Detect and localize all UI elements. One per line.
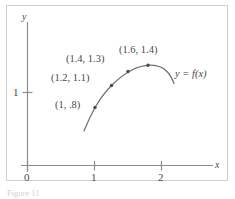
figure-caption: Figure 11	[7, 188, 127, 199]
figure-container: y x 1 0 1 2 (1, .8) (1.2, 1.1) (1.4, 1.3…	[0, 0, 235, 199]
plot-graphics	[0, 0, 235, 199]
x-tick-label-2: 2	[158, 172, 164, 183]
data-point-1	[93, 106, 96, 109]
point-label-4: (1.6, 1.4)	[119, 45, 158, 56]
x-tick-label-0: 0	[24, 172, 30, 183]
data-point-2	[110, 84, 113, 87]
point-label-1: (1, .8)	[55, 100, 80, 111]
x-axis-label: x	[215, 160, 219, 170]
point-label-2: (1.2, 1.1)	[51, 73, 90, 84]
function-label: y = f(x)	[175, 69, 207, 80]
data-point-4	[146, 63, 149, 66]
y-tick-label-1: 1	[13, 87, 19, 98]
y-axis-label: y	[22, 12, 26, 22]
function-curve	[84, 65, 174, 131]
x-tick-label-1: 1	[91, 172, 97, 183]
point-label-3: (1.4, 1.3)	[66, 54, 105, 65]
data-point-3	[126, 70, 129, 73]
